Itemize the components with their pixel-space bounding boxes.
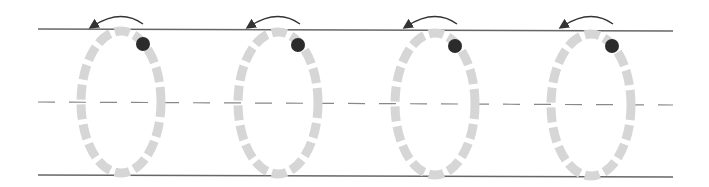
loop-diagram: [0, 0, 709, 187]
particle-dot-icon: [448, 39, 462, 53]
rotating-loop: [81, 16, 161, 173]
rotation-arrow-icon: [407, 16, 457, 26]
rotating-loop: [551, 16, 631, 176]
rotation-arrow-icon: [93, 16, 143, 26]
rotating-loop: [238, 16, 318, 174]
particle-dot-icon: [605, 39, 619, 53]
dashed-loop-ellipse: [238, 32, 318, 174]
rotation-arrow-icon: [563, 16, 613, 26]
particle-dot-icon: [291, 38, 305, 52]
dashed-loop-ellipse: [81, 31, 161, 173]
rotation-arrow-icon: [250, 16, 300, 26]
center-dashed-line: [38, 102, 673, 105]
dashed-loop-ellipse: [551, 34, 631, 176]
top-boundary-line: [38, 29, 673, 31]
dashed-loop-ellipse: [395, 33, 475, 175]
particle-dot-icon: [136, 37, 150, 51]
rotating-loop: [395, 16, 475, 175]
